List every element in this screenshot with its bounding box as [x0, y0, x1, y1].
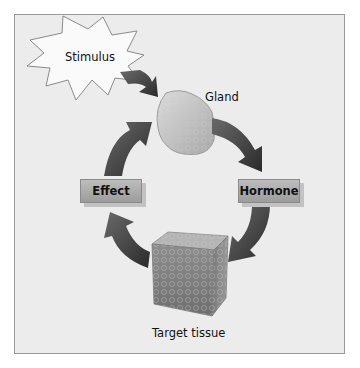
stimulus-label: Stimulus	[65, 50, 115, 64]
arrow-gland-to-hormone-icon	[212, 118, 262, 172]
target-tissue-label: Target tissue	[152, 326, 225, 340]
gland-label: Gland	[205, 90, 239, 104]
arrow-effect-to-gland-icon	[104, 122, 152, 176]
arrow-hormone-to-tissue-icon	[228, 204, 270, 262]
diagram-artwork	[0, 0, 360, 368]
hormone-label-box: Hormone	[238, 179, 300, 203]
target-tissue-cube-icon	[152, 232, 228, 316]
arrow-stimulus-to-gland-icon	[120, 70, 158, 97]
effect-label-box: Effect	[80, 179, 142, 203]
arrow-tissue-to-effect-icon	[104, 212, 150, 268]
